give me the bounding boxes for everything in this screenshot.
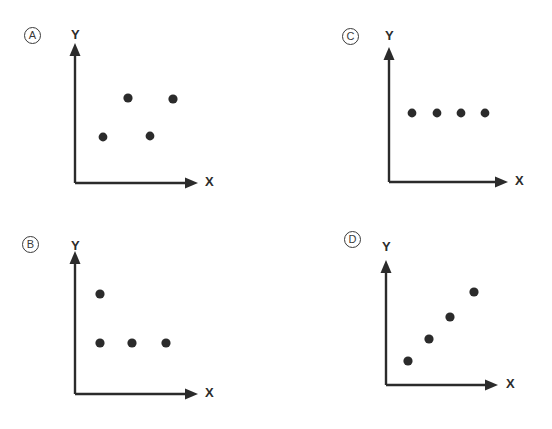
scatter-plot-figure: A Y X C Y X	[0, 0, 552, 429]
data-point	[424, 334, 433, 343]
panel-d-plot	[0, 0, 552, 429]
panel-d-x-axis-arrow-icon	[485, 380, 498, 391]
data-point	[403, 356, 412, 365]
data-point	[445, 312, 454, 321]
panel-d-y-axis-arrow-icon	[381, 260, 392, 273]
data-point	[469, 287, 478, 296]
